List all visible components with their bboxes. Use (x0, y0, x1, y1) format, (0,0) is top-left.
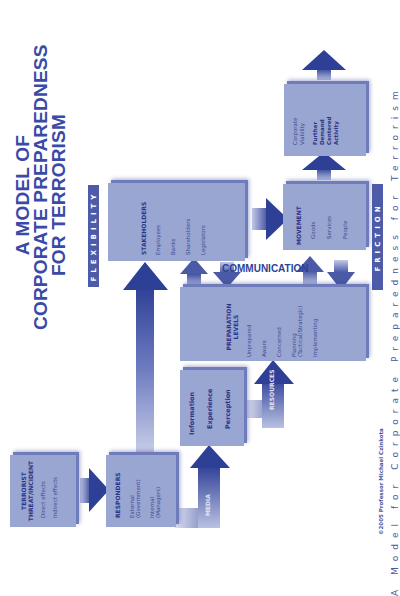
corporate-viability-content: Corporate Viability Further Demand Cente… (292, 113, 340, 145)
figure-caption: A Model for Corporate Preparedness for T… (390, 85, 400, 596)
preparation-levels-content: PREPARATION LEVELS Unprepared Aware Conc… (225, 297, 318, 357)
flexibility-band-wrap: FLEXIBILITY (88, 185, 99, 287)
friction-band-wrap: FRICTION (372, 184, 383, 290)
copyright-text: ©2005 Professor Michael Czinkota (378, 428, 384, 535)
information-content: Information Experience Perception (188, 389, 232, 435)
media-arrow-label: MEDIA (204, 494, 211, 516)
diagram-title: A MODEL OF CORPORATE PREPAREDNESS FOR TE… (14, 60, 68, 330)
arrow-preparation-to-stakeholders (180, 258, 208, 286)
stakeholders-content: STAKEHOLDERS Employees Banks Shareholder… (140, 202, 206, 255)
title-line-3: FOR TERRORISM (50, 60, 68, 330)
arrow-outcome-out (302, 50, 346, 80)
movement-content: MOVEMENT Goods Services People (295, 206, 348, 245)
arrow-terrorist-to-responders (80, 468, 109, 512)
arrow-movement-to-preparation (327, 260, 355, 290)
arrow-responders-to-stakeholders (123, 262, 168, 453)
arrow-movement-to-outcome (302, 152, 346, 180)
terrorist-threat-content: TERRORIST THREAT/INCIDENT Direct effects… (20, 460, 58, 522)
flexibility-band: FLEXIBILITY (88, 185, 99, 287)
communication-label: COMMUNICATION (222, 263, 308, 274)
resources-arrow-label: RESOURCES (268, 370, 275, 410)
friction-band: FRICTION (372, 184, 383, 290)
responders-content: RESPONDERS External (Government) Interna… (114, 472, 161, 522)
